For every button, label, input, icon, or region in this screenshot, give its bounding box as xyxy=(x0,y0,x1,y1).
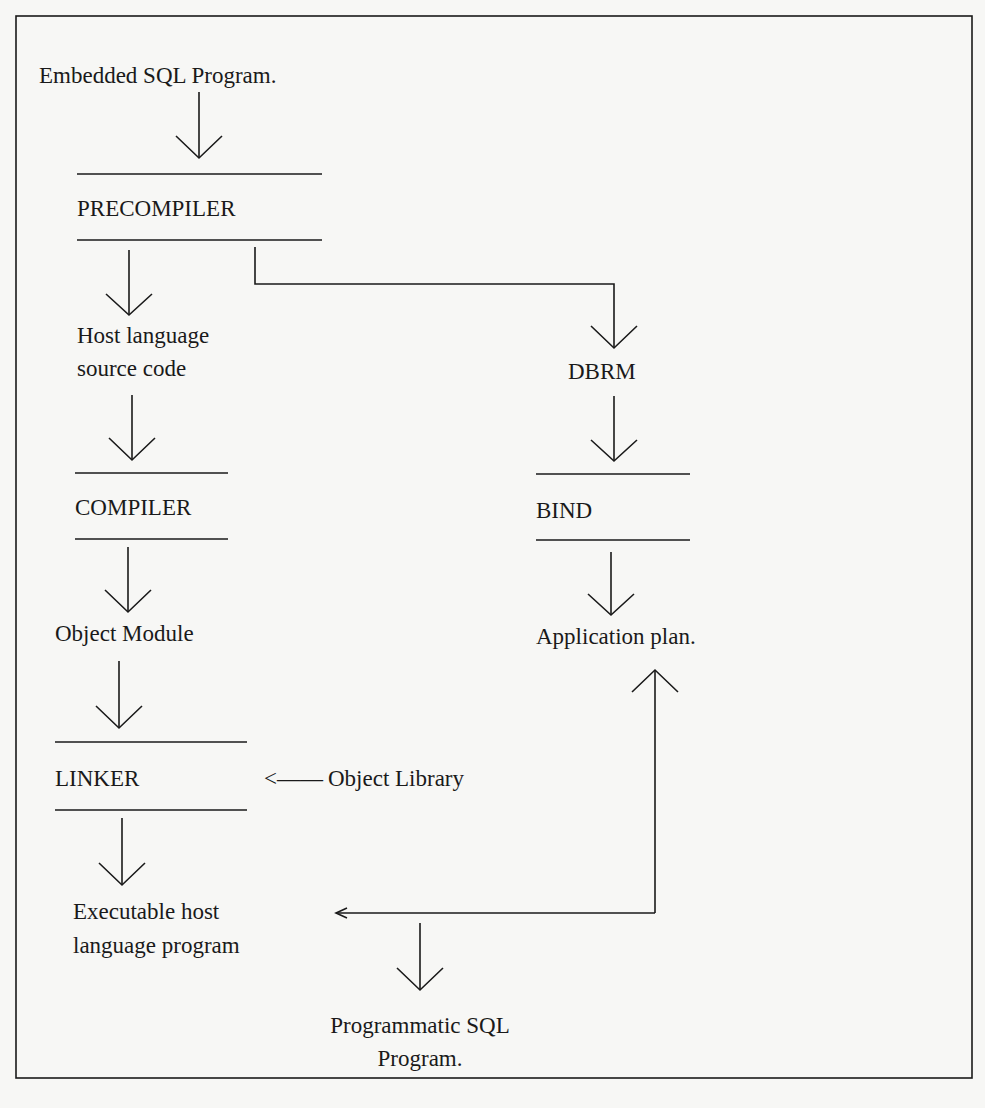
node-programmatic-line2: Program. xyxy=(320,1047,520,1070)
arrow-down-icon xyxy=(591,396,637,461)
node-executable-line2: language program xyxy=(73,934,240,957)
node-programmatic-line1: Programmatic SQL xyxy=(320,1014,520,1037)
node-executable-line1: Executable host xyxy=(73,900,219,923)
arrow-down-icon xyxy=(105,547,151,612)
node-precompiler: PRECOMPILER xyxy=(77,197,235,220)
node-bind: BIND xyxy=(536,499,592,522)
arrow-down-icon xyxy=(109,395,155,460)
node-host-source-line1: Host language xyxy=(77,324,209,347)
node-host-source-line2: source code xyxy=(77,357,186,380)
branch-arrow-icon xyxy=(255,247,637,348)
arrow-down-icon xyxy=(106,250,152,315)
node-object-module: Object Module xyxy=(55,622,194,645)
node-dbrm: DBRM xyxy=(568,360,636,383)
node-embedded-sql-program: Embedded SQL Program. xyxy=(39,64,276,87)
arrow-down-icon xyxy=(176,92,222,158)
object-library-arrow-icon: <—— xyxy=(264,767,323,790)
arrow-down-icon xyxy=(397,923,443,990)
merge-arrow-icon xyxy=(336,670,678,918)
node-application-plan: Application plan. xyxy=(536,625,696,648)
node-compiler: COMPILER xyxy=(75,496,191,519)
node-object-library: Object Library xyxy=(328,767,464,790)
arrow-down-icon xyxy=(96,661,142,728)
arrow-down-icon xyxy=(588,552,634,615)
node-linker: LINKER xyxy=(55,767,139,790)
arrow-down-icon xyxy=(99,818,145,885)
